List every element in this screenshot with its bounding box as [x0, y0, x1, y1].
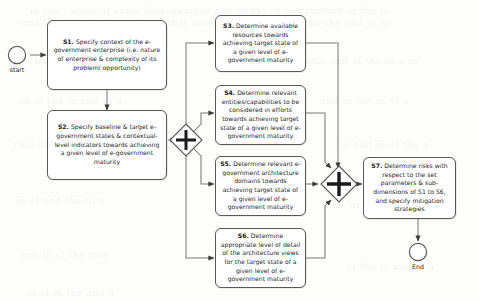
task-s6-text: Determine appropriate level of detail of… — [221, 232, 300, 282]
gateway-split-parallel — [170, 124, 202, 156]
gateway-join-parallel — [321, 166, 357, 202]
task-s1[interactable]: S1. Specify context of the e-government … — [47, 20, 167, 90]
start-event-circle — [8, 46, 25, 63]
end-event-label: End — [401, 263, 435, 270]
edge-split-to-s6 — [186, 150, 214, 258]
edge-s4-to-join — [306, 113, 331, 168]
edge-s6-to-join — [306, 200, 331, 258]
edge-split-to-s4 — [193, 113, 214, 132]
task-s4-code: S4. — [224, 89, 235, 96]
task-s6[interactable]: S6. Determine appropriate level of detai… — [215, 228, 306, 288]
edge-s3-to-join — [306, 43, 338, 168]
flowchart-canvas: in the , when of some dine-weather has o… — [0, 0, 479, 302]
task-s5-text: Determine relevant e-government architec… — [222, 160, 301, 210]
task-s3-code: S3. — [223, 22, 234, 29]
edge-split-to-s5 — [193, 148, 214, 184]
end-event-circle — [409, 243, 426, 260]
start-event-label: start — [0, 66, 34, 73]
task-s3[interactable]: S3. Determine available resources toward… — [215, 15, 306, 72]
task-s3-text: Determine available resources towards ac… — [223, 22, 299, 64]
task-s6-code: S6. — [238, 232, 249, 239]
task-s1-code: S1. — [63, 38, 74, 45]
task-s7[interactable]: S7. Determine risks with respect to the … — [363, 157, 456, 219]
task-s2-code: S2. — [58, 123, 69, 130]
task-s7-text: Determine risks with respect to the set … — [373, 162, 447, 212]
task-s4-text: Determine relevant entities/capabilities… — [220, 89, 300, 139]
task-s5[interactable]: S5. Determine relevant e-government arch… — [215, 156, 306, 216]
task-s5-code: S5. — [220, 160, 231, 167]
task-s4[interactable]: S4. Determine relevant entities/capabili… — [215, 85, 306, 145]
task-s7-code: S7. — [371, 162, 382, 169]
task-s2-text: Specify baseline & target e-government s… — [55, 123, 160, 165]
task-s2[interactable]: S2. Specify baseline & target e-governme… — [47, 110, 167, 180]
